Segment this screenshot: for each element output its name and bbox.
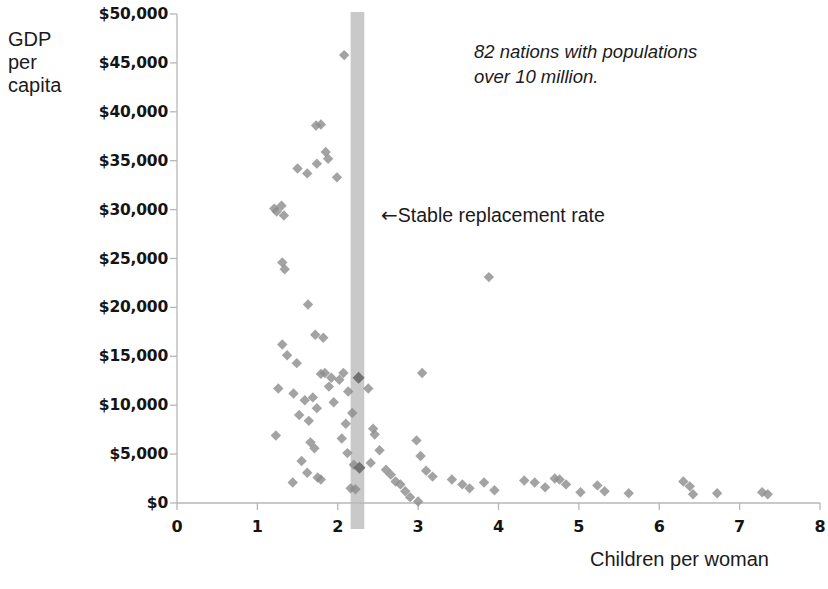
data-point — [282, 350, 292, 360]
x-axis-tick-label: 3 — [413, 517, 424, 536]
data-point — [484, 272, 494, 282]
data-point — [592, 480, 602, 490]
x-axis-title: Children per woman — [590, 548, 769, 571]
stable-replacement-rate-label: Stable replacement rate — [398, 204, 605, 226]
sample-note-line-2: over 10 million. — [474, 65, 774, 90]
data-point — [341, 419, 351, 429]
x-axis-tick-label: 8 — [814, 517, 825, 536]
sample-note-line-1: 82 nations with populations — [474, 40, 774, 65]
data-point — [324, 381, 334, 391]
data-point — [277, 339, 287, 349]
data-point — [529, 477, 539, 487]
data-point — [479, 477, 489, 487]
scatter-chart: GDP per capita $0$5,000$10,000$15,000$20… — [0, 0, 828, 589]
sample-note-annotation: 82 nations with populations over 10 mill… — [474, 40, 774, 90]
x-axis-tick-label: 5 — [573, 517, 584, 536]
data-point — [519, 475, 529, 485]
data-point — [292, 163, 302, 173]
left-arrow-icon: ← — [381, 203, 398, 227]
data-point — [288, 388, 298, 398]
data-point — [271, 430, 281, 440]
data-point — [296, 456, 306, 466]
data-point — [312, 403, 322, 413]
data-point — [447, 474, 457, 484]
x-axis-tick-label: 7 — [734, 517, 745, 536]
x-axis-tick-label: 4 — [493, 517, 504, 536]
data-point — [304, 416, 314, 426]
data-point — [374, 445, 384, 455]
data-points-group — [269, 50, 773, 507]
data-point — [411, 435, 421, 445]
x-axis-tick-label: 0 — [171, 517, 182, 536]
x-axis-tick-label: 2 — [332, 517, 343, 536]
stable-replacement-rate-annotation: ←Stable replacement rate — [381, 203, 605, 227]
data-point — [312, 158, 322, 168]
data-point — [273, 383, 283, 393]
data-point — [417, 368, 427, 378]
x-axis-tick-labels: 012345678 — [0, 517, 828, 545]
x-axis-tick-label: 6 — [654, 517, 665, 536]
data-point — [288, 477, 298, 487]
stable-replacement-band — [351, 12, 365, 529]
data-point — [489, 485, 499, 495]
data-point — [366, 458, 376, 468]
data-point — [624, 488, 634, 498]
data-point — [329, 397, 339, 407]
data-point — [292, 358, 302, 368]
data-point — [337, 433, 347, 443]
stable-replacement-band-group — [351, 12, 365, 529]
data-point — [302, 168, 312, 178]
data-point — [540, 482, 550, 492]
data-point — [332, 172, 342, 182]
data-point — [363, 383, 373, 393]
data-point — [294, 410, 304, 420]
data-point — [339, 50, 349, 60]
data-point — [415, 451, 425, 461]
data-point — [303, 299, 313, 309]
data-point — [712, 488, 722, 498]
x-axis-tick-label: 1 — [252, 517, 263, 536]
data-point — [575, 487, 585, 497]
data-point — [302, 467, 312, 477]
data-point — [599, 486, 609, 496]
